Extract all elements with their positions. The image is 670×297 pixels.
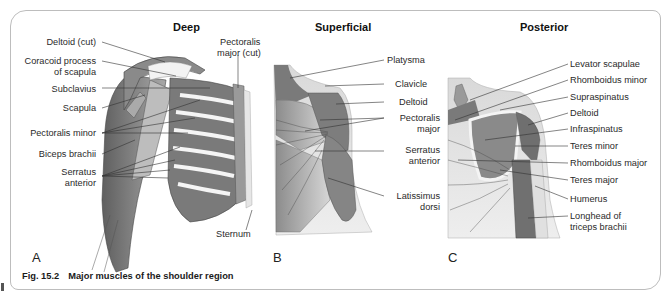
panel-title-deep: Deep bbox=[173, 21, 200, 33]
superficial-illustration bbox=[274, 60, 384, 235]
label-pectoralis: Pectoralis bbox=[220, 37, 260, 48]
figure-number: Fig. 15.2 bbox=[22, 271, 59, 281]
label-rhomboidus-major: Rhomboidus major bbox=[570, 158, 647, 169]
label-humerus: Humerus bbox=[570, 194, 607, 205]
label-serratus-b-1: Serratus bbox=[405, 145, 440, 156]
label-infraspinatus: Infraspinatus bbox=[570, 124, 623, 135]
label-deltoid-cut: Deltoid (cut) bbox=[46, 37, 96, 48]
label-serratus-b-2: anterior bbox=[409, 156, 440, 167]
label-longhead-of: Longhead of bbox=[570, 211, 621, 222]
label-deltoid-superficial: Deltoid bbox=[399, 97, 428, 108]
label-coracoid-of-scapula: of scapula bbox=[54, 67, 96, 78]
label-pectoralis-minor: Pectoralis minor bbox=[30, 128, 96, 139]
label-sternum: Sternum bbox=[216, 229, 251, 240]
label-scapula: Scapula bbox=[63, 103, 96, 114]
label-serratus-anterior: anterior bbox=[65, 178, 96, 189]
panel-letter-a: A bbox=[32, 250, 41, 265]
label-clavicle: Clavicle bbox=[395, 79, 427, 90]
label-pectoralis-major-2: major bbox=[417, 124, 440, 135]
figure-caption: Fig. 15.2Major muscles of the shoulder r… bbox=[22, 271, 234, 281]
label-pectoralis-major-1: Pectoralis bbox=[400, 113, 440, 124]
label-teres-major: Teres major bbox=[570, 175, 618, 186]
label-triceps-brachii: triceps brachii bbox=[570, 222, 627, 233]
panel-title-superficial: Superficial bbox=[315, 21, 371, 33]
label-dorsi: dorsi bbox=[420, 202, 440, 213]
panel-title-posterior: Posterior bbox=[520, 21, 568, 33]
label-deltoid-posterior: Deltoid bbox=[570, 108, 599, 119]
label-levator-scapulae: Levator scapulae bbox=[570, 59, 640, 70]
label-subclavius: Subclavius bbox=[52, 84, 96, 95]
posterior-illustration bbox=[448, 64, 568, 238]
panel-letter-c: C bbox=[448, 250, 457, 265]
label-coracoid-process: Coracoid process bbox=[25, 56, 97, 67]
label-biceps-brachii: Biceps brachii bbox=[39, 149, 96, 160]
label-teres-minor: Teres minor bbox=[570, 141, 618, 152]
label-rhomboidus-minor: Rhomboidus minor bbox=[570, 75, 647, 86]
label-serratus: Serratus bbox=[61, 167, 96, 178]
panel-letter-b: B bbox=[273, 250, 282, 265]
label-supraspinatus: Supraspinatus bbox=[570, 92, 629, 103]
label-latissimus: Latissimus bbox=[397, 191, 440, 202]
figure-caption-text: Major muscles of the shoulder region bbox=[68, 271, 233, 281]
label-platysma: Platysma bbox=[387, 55, 425, 66]
label-major-cut: major (cut) bbox=[217, 48, 261, 59]
